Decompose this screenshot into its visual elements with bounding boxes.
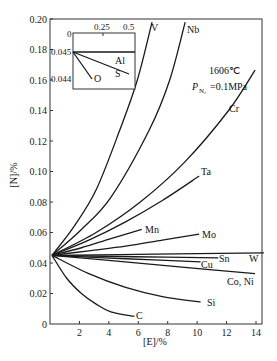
inset-label-al: Al [115,55,125,66]
curve-labels: V Nb Cr Ta Mn Mo W Sn Cu Co, Ni Si C [136,22,259,321]
y-tick-label: 0.08 [30,197,48,208]
x-axis-title: [E]/% [143,336,167,347]
curve-w [52,253,264,255]
x-tick-label: 14 [251,327,261,338]
x-tick-label: 4 [106,327,111,338]
x-tick-label: 10 [192,327,202,338]
label-mn: Mn [145,224,159,235]
curve-ta [52,176,199,255]
temperature-label: 1606℃ [209,65,240,76]
label-si: Si [207,297,216,308]
inset-x-tick-05: 0.5 [123,22,135,32]
curve-mn [52,229,142,255]
x-tick-label: 12 [222,327,232,338]
pressure-value: =0.1MPa [210,81,248,92]
y-tick-label: 0.06 [30,227,48,238]
pressure-subscript: N₂ [199,87,207,95]
y-tick-label: 0.12 [30,136,48,147]
label-nb: Nb [187,24,199,35]
x-tick-label: 6 [136,327,141,338]
y-tick-label: 0.16 [30,75,48,86]
y-tick-label: 0.20 [30,14,48,25]
inset-label-s: S [115,68,121,79]
inset-label-o: O [94,73,101,84]
label-ta: Ta [201,166,211,177]
y-axis: 00.020.040.060.080.100.120.140.160.180.2… [30,14,54,330]
y-tick-label: 0 [42,319,47,330]
label-v: V [151,22,159,33]
label-cr: Cr [229,103,240,114]
label-co-ni: Co, Ni [227,276,254,287]
y-tick-label: 0.18 [30,44,48,55]
conditions-annotation: 1606℃ P N₂ =0.1MPa [191,65,248,95]
y-tick-label: 0.02 [30,288,48,299]
inset-y-tick-0045: 0.045 [51,47,72,57]
inset-x-tick-0: 0 [67,29,72,39]
label-c: C [136,310,143,321]
y-tick-label: 0.14 [30,105,48,116]
inset-frame [73,33,135,89]
x-tick-label: 2 [77,327,82,338]
label-cu: Cu [201,259,213,270]
nitrogen-solubility-chart: 00.020.040.060.080.100.120.140.160.180.2… [0,0,277,361]
y-tick-label: 0.04 [30,258,48,269]
label-mo: Mo [202,229,216,240]
y-axis-title: [N]/% [8,163,19,188]
label-w: W [249,253,259,264]
y-tick-label: 0.10 [30,166,48,177]
inset-y-tick-0044: 0.044 [51,74,72,84]
pressure-symbol: P [191,81,198,92]
inset-x-tick-025: 0.25 [94,22,110,32]
inset-chart: 0 0.25 0.5 0.045 0.044 Al S O [51,22,135,89]
label-sn: Sn [219,253,230,264]
